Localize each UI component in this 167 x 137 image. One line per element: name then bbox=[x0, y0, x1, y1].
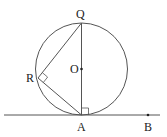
label-R: R bbox=[26, 71, 34, 85]
point-O bbox=[80, 68, 83, 71]
label-B: B bbox=[144, 120, 152, 134]
right-angle-mark-R bbox=[42, 73, 47, 83]
label-O: O bbox=[70, 62, 79, 76]
right-angle-mark-A bbox=[82, 108, 89, 115]
point-B bbox=[147, 114, 150, 117]
label-Q: Q bbox=[76, 7, 85, 21]
label-A: A bbox=[77, 120, 86, 134]
geometry-diagram: Q O R A B bbox=[0, 0, 167, 137]
